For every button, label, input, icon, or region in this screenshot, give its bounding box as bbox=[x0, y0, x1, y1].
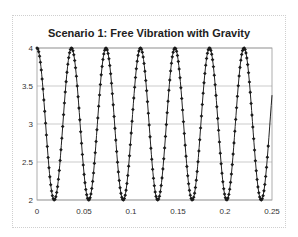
x-tick-label: 0.05 bbox=[76, 207, 92, 216]
y-axis-ticks: 22.533.54 bbox=[22, 44, 34, 205]
y-tick-label: 4 bbox=[29, 44, 34, 53]
y-tick-label: 2.5 bbox=[22, 158, 34, 167]
x-tick-label: 0.1 bbox=[125, 207, 137, 216]
y-tick-label: 3 bbox=[29, 120, 34, 129]
x-tick-label: 0.2 bbox=[219, 207, 231, 216]
gridlines bbox=[37, 48, 272, 200]
x-tick-label: 0.25 bbox=[264, 207, 280, 216]
plot-area: 22.533.54 00.050.10.150.20.25 bbox=[0, 0, 298, 237]
x-tick-label: 0.15 bbox=[170, 207, 186, 216]
x-axis-ticks: 00.050.10.150.20.25 bbox=[35, 207, 281, 216]
y-tick-label: 2 bbox=[29, 196, 34, 205]
x-tick-label: 0 bbox=[35, 207, 40, 216]
y-tick-label: 3.5 bbox=[22, 82, 34, 91]
